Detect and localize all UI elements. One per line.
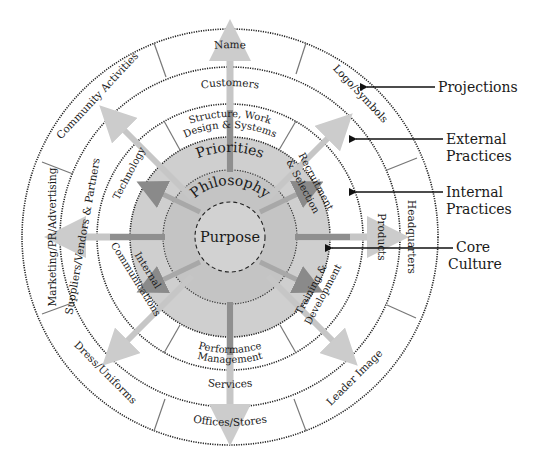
projection-item-headquarters: Headquarters [406, 200, 418, 274]
callout-core-culture: CoreCulture [448, 239, 502, 272]
culture-diagram: Priorities Philosophy Purpose Structure,… [0, 0, 537, 471]
external-item-products: Products [376, 213, 388, 260]
callout-projections: Projections [438, 79, 518, 95]
callout-internal-practices: InternalPractices [446, 184, 512, 217]
purpose-label: Purpose [200, 229, 260, 245]
projection-item-marketing: Marketing/PR/Advertising [46, 167, 58, 306]
projection-item-name: Name [214, 38, 247, 51]
external-item-services: Services [207, 376, 253, 390]
callout-external-practices: ExternalPractices [446, 131, 512, 164]
